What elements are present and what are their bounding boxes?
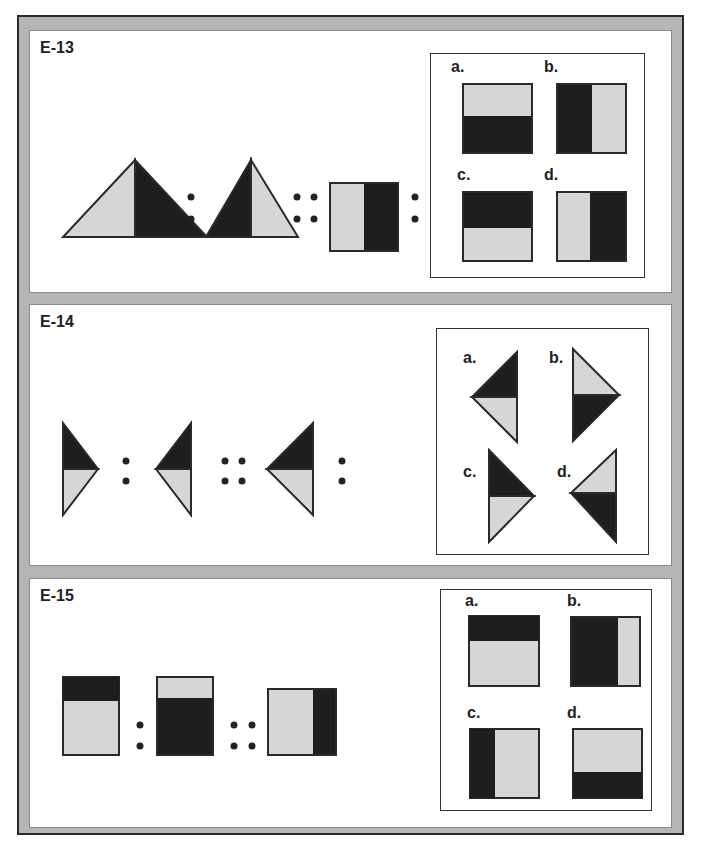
answer-options-box: a. b. c. d. xyxy=(430,53,645,278)
analogy-figures xyxy=(60,124,440,244)
panel-e15: E-15 a. b. c. d. xyxy=(29,578,672,828)
analogy-dot xyxy=(222,458,229,465)
option-b[interactable] xyxy=(573,349,619,441)
option-d[interactable] xyxy=(573,729,642,798)
answer-options-box: a. b. c. d. xyxy=(440,589,652,811)
option-a[interactable] xyxy=(463,84,532,153)
options-figures xyxy=(437,329,650,556)
options-figures xyxy=(431,54,646,279)
ratio-dot xyxy=(137,722,144,729)
analogy-dot xyxy=(294,194,301,201)
panel-title: E-13 xyxy=(40,39,74,57)
panel-title: E-14 xyxy=(40,313,74,331)
options-figures xyxy=(441,590,653,812)
analogy-dot xyxy=(231,722,238,729)
answer-options-box: a. b. c. d. xyxy=(436,328,649,555)
panel-title: E-15 xyxy=(40,587,74,605)
ratio-dot xyxy=(339,458,346,465)
triangle-shape xyxy=(63,160,135,237)
outer-frame: E-13 a. b. c. d. xyxy=(17,15,684,835)
ratio-dot xyxy=(412,194,419,201)
option-c[interactable] xyxy=(463,192,532,261)
option-a[interactable] xyxy=(469,616,539,686)
analogy-figures xyxy=(60,669,440,789)
option-b[interactable] xyxy=(557,84,626,153)
triangle-shape xyxy=(135,160,207,237)
panel-e13: E-13 a. b. c. d. xyxy=(29,30,672,293)
panel-e14: E-14 a. b. c. d. xyxy=(29,304,672,566)
option-b[interactable] xyxy=(571,617,640,686)
ratio-dot xyxy=(123,458,130,465)
analogy-figures xyxy=(60,395,440,535)
triangle-shape xyxy=(206,160,251,237)
option-c[interactable] xyxy=(470,729,539,798)
option-d[interactable] xyxy=(571,450,616,542)
option-a[interactable] xyxy=(472,352,517,442)
triangle-shape xyxy=(251,160,298,237)
ratio-dot xyxy=(188,194,195,201)
option-c[interactable] xyxy=(489,450,534,542)
option-d[interactable] xyxy=(557,192,626,261)
